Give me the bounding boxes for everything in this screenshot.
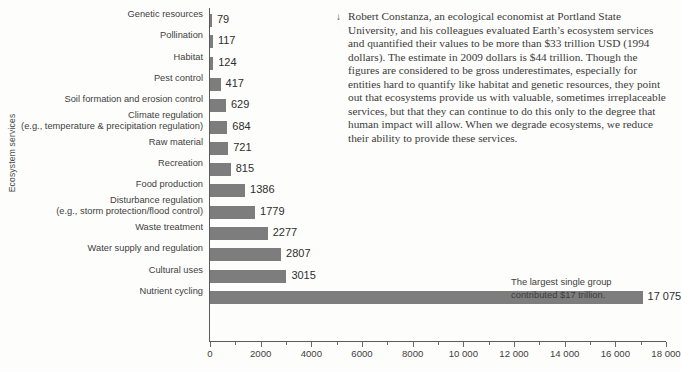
bar: [210, 227, 268, 240]
x-axis-tick: [514, 342, 515, 347]
x-axis-tick: [565, 342, 566, 347]
x-axis-tick: [210, 342, 211, 347]
bar: [210, 142, 228, 155]
bar-value-label: 721: [233, 141, 251, 154]
category-label-line-1: Habitat: [0, 52, 203, 63]
x-axis-tick-label: 10 000: [449, 348, 478, 359]
largest-group-annotation: The largest single group contributed $17…: [511, 276, 681, 301]
bar: [210, 206, 255, 219]
bar: [210, 163, 231, 176]
bar-value-label: 124: [218, 56, 236, 69]
category-label: Water supply and regulation: [0, 243, 203, 254]
category-label: Cultural uses: [0, 265, 203, 276]
category-label-line-1: Disturbance regulation: [0, 195, 203, 206]
category-label: Nutrient cycling: [0, 286, 203, 297]
category-label: Disturbance regulation(e.g., storm prote…: [0, 195, 203, 217]
category-label-line-1: Food production: [0, 179, 203, 190]
bar: [210, 35, 213, 48]
bar-value-label: 629: [231, 98, 249, 111]
bar-value-label: 1779: [260, 205, 284, 218]
x-axis-tick: [438, 342, 439, 345]
x-axis-tick-label: 12 000: [499, 348, 528, 359]
category-label-line-1: Water supply and regulation: [0, 243, 203, 254]
chart-row: Water supply and regulation2807: [0, 242, 676, 263]
category-label-line-1: Pollination: [0, 30, 203, 41]
annotation-line-1: The largest single group: [511, 276, 681, 289]
category-label-line-1: Genetic resources: [0, 9, 203, 20]
category-label-line-1: Soil formation and erosion control: [0, 94, 203, 105]
category-label: Waste treatment: [0, 222, 203, 233]
chart-row: Disturbance regulation(e.g., storm prote…: [0, 200, 676, 221]
chart-row: Waste treatment2277: [0, 221, 676, 242]
caption-text: Robert Constanza, an ecological economis…: [348, 10, 666, 145]
category-label: Raw material: [0, 137, 203, 148]
annotation-line-2: contributed $17 trillion.: [511, 289, 681, 302]
category-label-line-2: (e.g., storm protection/flood control): [0, 206, 203, 217]
x-axis-tick-label: 18 000: [651, 348, 680, 359]
x-axis-tick: [387, 342, 388, 345]
bar-value-label: 1386: [250, 183, 274, 196]
x-axis-tick-label: 16 000: [601, 348, 630, 359]
bar: [210, 248, 281, 261]
x-axis-tick-label: 14 000: [550, 348, 579, 359]
x-axis-tick-label: 4000: [301, 348, 322, 359]
bar: [210, 14, 212, 27]
bar-value-label: 79: [217, 13, 229, 26]
x-axis-tick-label: 8000: [402, 348, 423, 359]
x-axis-tick: [413, 342, 414, 347]
x-axis-tick-label: 6000: [351, 348, 372, 359]
x-axis-tick: [489, 342, 490, 345]
bar: [210, 121, 227, 134]
x-axis-tick: [539, 342, 540, 345]
bar: [210, 99, 226, 112]
category-label: Pollination: [0, 30, 203, 41]
category-label: Recreation: [0, 158, 203, 169]
x-axis-tick: [261, 342, 262, 347]
figure-caption: ↓ Robert Constanza, an ecological econom…: [336, 10, 666, 145]
category-label-line-1: Cultural uses: [0, 265, 203, 276]
category-label-line-1: Nutrient cycling: [0, 286, 203, 297]
bar-value-label: 815: [236, 162, 254, 175]
x-axis-tick: [590, 342, 591, 345]
bar-value-label: 2277: [273, 226, 297, 239]
bar: [210, 78, 221, 91]
x-axis-tick: [311, 342, 312, 347]
category-label: Climate regulation(e.g., temperature & p…: [0, 110, 203, 132]
x-axis-tick: [362, 342, 363, 347]
x-axis-tick: [337, 342, 338, 345]
category-label: Food production: [0, 179, 203, 190]
x-axis-tick: [615, 342, 616, 347]
x-axis-tick: [286, 342, 287, 345]
x-axis-tick: [666, 342, 667, 347]
category-label-line-1: Waste treatment: [0, 222, 203, 233]
category-label-line-1: Raw material: [0, 137, 203, 148]
x-axis-tick-label: 0: [207, 348, 212, 359]
x-axis-tick: [641, 342, 642, 345]
x-axis-tick: [463, 342, 464, 347]
category-label-line-2: (e.g., temperature & precipitation regul…: [0, 121, 203, 132]
x-axis-tick: [235, 342, 236, 345]
category-label: Soil formation and erosion control: [0, 94, 203, 105]
down-arrow-icon: ↓: [336, 10, 341, 24]
category-label-line-1: Recreation: [0, 158, 203, 169]
category-label-line-1: Pest control: [0, 73, 203, 84]
bar-value-label: 3015: [291, 269, 315, 282]
bar-value-label: 417: [226, 77, 244, 90]
x-axis-tick-label: 2000: [250, 348, 271, 359]
category-label: Pest control: [0, 73, 203, 84]
y-axis-line: [209, 8, 210, 341]
bar-value-label: 117: [218, 34, 236, 47]
bar: [210, 57, 213, 70]
chart-row: Recreation815: [0, 157, 676, 178]
bar: [210, 270, 286, 283]
category-label: Habitat: [0, 52, 203, 63]
category-label-line-1: Climate regulation: [0, 110, 203, 121]
bar: [210, 184, 245, 197]
bar-value-label: 2807: [286, 247, 310, 260]
category-label: Genetic resources: [0, 9, 203, 20]
bar-value-label: 684: [232, 120, 250, 133]
